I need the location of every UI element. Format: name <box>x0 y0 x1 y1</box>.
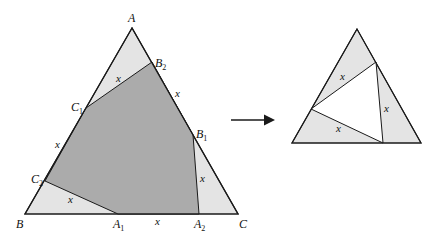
vertex-label-a1: A1 <box>112 217 124 233</box>
vertex-label-b: B <box>16 217 24 231</box>
right-triangle-figure: x x x <box>292 29 421 143</box>
transform-arrow <box>231 115 275 126</box>
vertex-label-a2: A2 <box>193 217 205 233</box>
vertex-label-c2: C2 <box>31 172 43 188</box>
x-label-corner-a: x <box>115 72 121 84</box>
x-label-corner-b: x <box>67 193 73 205</box>
x-label-side-ab: x <box>54 138 60 150</box>
x-label-bottom-piece: x <box>335 122 341 134</box>
vertex-label-c1: C1 <box>71 100 83 116</box>
x-label-side-bc: x <box>154 215 160 227</box>
left-triangle-figure: A B C A1 A2 B1 B2 C1 C2 x x x x x x <box>16 11 248 233</box>
diagram-canvas: A B C A1 A2 B1 B2 C1 C2 x x x x x x x x … <box>0 0 442 242</box>
arrow-head-icon <box>264 115 275 126</box>
x-label-corner-c: x <box>199 172 205 184</box>
x-label-right-piece: x <box>383 102 389 114</box>
vertex-label-b1: B1 <box>196 127 207 143</box>
x-label-side-ac: x <box>174 87 180 99</box>
vertex-label-c: C <box>239 217 248 231</box>
x-label-top-piece: x <box>339 70 345 82</box>
vertex-label-b2: B2 <box>155 56 166 72</box>
vertex-label-a: A <box>127 11 136 25</box>
